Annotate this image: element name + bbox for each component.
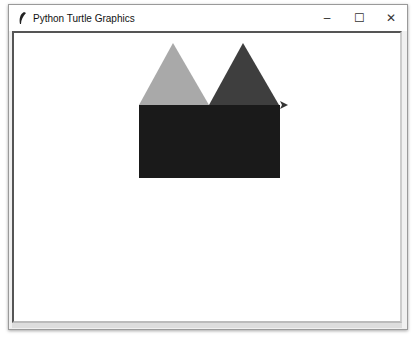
drawing-layer xyxy=(0,0,414,339)
light-gray-triangle xyxy=(139,43,209,105)
turtle-cursor-icon xyxy=(280,101,288,109)
black-rectangle xyxy=(139,105,280,178)
dark-gray-triangle xyxy=(209,43,279,105)
